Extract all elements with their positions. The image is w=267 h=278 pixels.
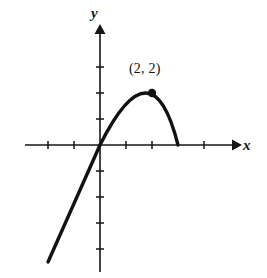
y-axis-label: y bbox=[91, 6, 98, 21]
curve-parabolic-branch bbox=[100, 93, 178, 145]
graph-figure: y x (2, 2) bbox=[0, 0, 267, 278]
curve-linear-branch bbox=[48, 145, 100, 262]
y-axis-arrowhead bbox=[95, 24, 106, 34]
x-axis-arrowhead bbox=[232, 140, 242, 151]
plot-canvas bbox=[0, 0, 267, 278]
vertex-point-marker bbox=[148, 89, 156, 97]
vertex-point-label: (2, 2) bbox=[129, 62, 161, 76]
x-axis-label: x bbox=[243, 138, 251, 153]
